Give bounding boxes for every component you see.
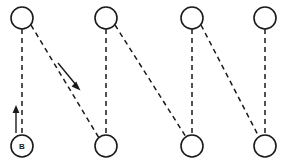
node-top-4[interactable] <box>254 7 276 29</box>
node-top-2-circle[interactable] <box>95 7 117 29</box>
node-bottom-4[interactable] <box>254 135 276 157</box>
arrow-layer <box>13 63 81 133</box>
node-bottom-2-circle[interactable] <box>95 135 117 157</box>
node-bottom-3[interactable] <box>181 135 203 157</box>
arrow-up-head <box>13 105 20 113</box>
arrow-up-icon <box>13 105 20 133</box>
node-top-3-circle[interactable] <box>181 7 203 29</box>
node-bottom-2[interactable] <box>95 135 117 157</box>
node-bottom-1[interactable]: B <box>11 135 33 157</box>
arrow-diagonal-icon <box>58 63 81 91</box>
node-bottom-1-label: B <box>19 142 25 151</box>
edge-top1-bottom2 <box>31 25 99 138</box>
node-top-3[interactable] <box>181 7 203 29</box>
arrow-diagonal-head <box>72 82 81 91</box>
node-bottom-3-circle[interactable] <box>181 135 203 157</box>
node-bottom-4-circle[interactable] <box>254 135 276 157</box>
node-top-1[interactable] <box>11 7 33 29</box>
node-graph-svg: B <box>0 0 289 163</box>
edge-top3-bottom4 <box>201 25 259 137</box>
node-top-1-circle[interactable] <box>11 7 33 29</box>
diagram-canvas: B <box>0 0 289 163</box>
node-top-4-circle[interactable] <box>254 7 276 29</box>
edge-top2-bottom3 <box>115 25 186 137</box>
node-top-2[interactable] <box>95 7 117 29</box>
edge-layer <box>22 25 265 138</box>
node-layer: B <box>11 7 276 157</box>
